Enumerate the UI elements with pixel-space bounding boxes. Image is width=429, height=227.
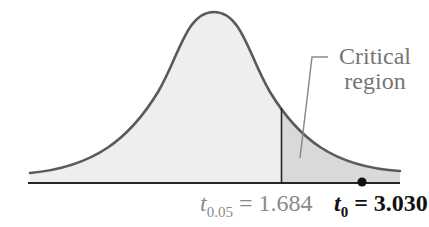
test-statistic-dot <box>357 177 366 186</box>
test-statistic-value: = 3.030 <box>348 190 428 216</box>
test-statistic-symbol: t <box>334 190 341 216</box>
critical-region-label-line1: Critical <box>323 44 427 69</box>
test-statistic-label: t0 = 3.030 <box>334 190 428 217</box>
critical-value-subscript: 0.05 <box>207 204 233 220</box>
critical-value-value: = 1.684 <box>233 190 313 216</box>
critical-region-fill <box>281 108 400 183</box>
t-distribution-figure: Critical region t0.05 = 1.684 t0 = 3.030 <box>0 0 429 227</box>
curve-area-fill <box>30 12 400 183</box>
critical-value-symbol: t <box>200 190 207 216</box>
critical-value-label: t0.05 = 1.684 <box>200 190 312 217</box>
critical-region-label: Critical region <box>323 44 427 94</box>
critical-region-label-line2: region <box>323 69 427 94</box>
